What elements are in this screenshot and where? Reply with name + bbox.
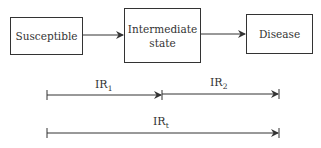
interval-ir1-label: IR1	[95, 78, 112, 93]
node-disease-label: Disease	[259, 27, 300, 41]
node-intermediate-label-line2: state	[149, 36, 175, 50]
node-susceptible-label: Susceptible	[15, 29, 77, 43]
interval-ir2-label: IR2	[210, 76, 227, 91]
node-disease: Disease	[246, 14, 313, 54]
interval-irt-label: IRt	[153, 115, 169, 130]
node-susceptible: Susceptible	[10, 17, 83, 55]
node-intermediate-state: Intermediate state	[124, 8, 201, 63]
node-intermediate-label-line1: Intermediate	[128, 22, 197, 36]
